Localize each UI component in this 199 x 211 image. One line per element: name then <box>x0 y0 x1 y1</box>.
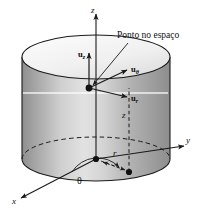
projected-base-point <box>126 169 132 175</box>
origin-point <box>93 156 99 162</box>
height-label: z <box>121 110 126 120</box>
theta-label: θ <box>77 175 82 186</box>
figure-canvas: z y x z r θ <box>0 0 199 211</box>
x-axis-label: x <box>11 196 16 206</box>
point-in-space-caption: Ponto no espaço <box>117 30 180 40</box>
cylindrical-coordinates-figure: z y x z r θ <box>0 0 199 211</box>
z-axis-label: z <box>90 5 95 15</box>
y-axis-label: y <box>185 135 190 145</box>
radius-label: r <box>113 148 117 158</box>
